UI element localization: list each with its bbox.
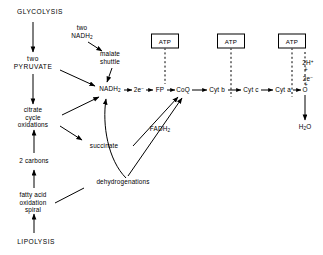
arrow-citrate-to-succinate: [60, 126, 82, 140]
arrow-dehydrogenations-to-nadh2: [105, 99, 126, 178]
node-nadh2-text: NADH: [99, 85, 118, 92]
node-two-h-plus-sup: +: [311, 59, 314, 64]
node-two-carbons: 2 carbons: [19, 157, 48, 165]
node-citrate-cycle-oxidations: citrate cycle oxidations: [18, 106, 48, 129]
metabolism-diagram: ATP ATP ATP GLYCOLYSIS two NADH2 malate …: [0, 0, 323, 255]
arrow-fattyacid-to-dehydrogenations: [55, 188, 84, 203]
node-two-electrons: 2e−: [134, 85, 144, 93]
node-nadh2-sub: 2: [118, 88, 121, 93]
node-fadh2-sub: 2: [167, 128, 170, 133]
node-malate-shuttle: malate shuttle: [100, 50, 120, 65]
node-nadh2: NADH2: [99, 85, 120, 95]
arrow-malate-to-nadh2: [107, 68, 112, 82]
node-coq: CoQ: [176, 86, 190, 94]
node-two-e-minus-sup: −: [310, 75, 313, 80]
node-fp: FP: [156, 86, 164, 94]
arrow-dehydrogenations-to-coq: [128, 98, 182, 176]
arrow-pyruvate-to-nadh2: [60, 70, 95, 86]
node-lipolysis: LIPOLYSIS: [17, 238, 55, 246]
node-two-h-plus: 2H+: [302, 58, 313, 66]
node-succinate: succinate: [90, 142, 118, 150]
node-glycolysis: GLYCOLYSIS: [17, 8, 63, 16]
node-cyt-a: Cyt a: [275, 86, 291, 94]
atp-label-2: ATP: [218, 35, 244, 48]
node-cyt-b: Cyt b: [209, 86, 225, 94]
node-plus-upper: +: [304, 66, 308, 74]
node-fadh2-text: FADH: [150, 125, 168, 132]
atp-box-1: ATP: [151, 34, 179, 49]
node-two-nadh2-sub: 2: [90, 35, 93, 40]
arrow-citrate-to-nadh2: [62, 97, 99, 115]
arrow-succinate-to-coq: [133, 97, 178, 146]
node-fadh2: FADH2: [150, 125, 170, 135]
node-cyt-c: Cyt c: [243, 86, 258, 94]
node-two-nadh2: two NADH2: [71, 24, 92, 41]
node-two-pyruvate: two PYRUVATE: [14, 55, 53, 70]
atp-label-1: ATP: [152, 35, 178, 48]
node-plus-lower: +: [304, 81, 308, 89]
node-two-nadh2-text: two NADH: [71, 24, 90, 39]
atp-label-3: ATP: [279, 35, 305, 48]
node-fatty-acid-oxidation-spiral: fatty acid oxidation spiral: [19, 191, 46, 214]
atp-box-3: ATP: [278, 34, 306, 49]
node-two-electrons-sup: −: [141, 86, 144, 91]
node-dehydrogenations: dehydrogenations: [96, 178, 149, 186]
node-water: H2O: [299, 123, 312, 133]
atp-box-2: ATP: [217, 34, 245, 49]
node-water-tail: O: [306, 123, 311, 130]
